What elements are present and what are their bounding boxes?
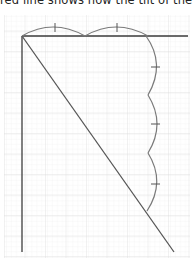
grid-background: [4, 15, 190, 258]
tilt-diagram: [0, 0, 196, 268]
